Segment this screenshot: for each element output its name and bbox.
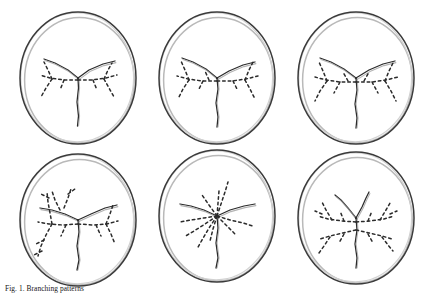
petri-dish-bottom-right bbox=[286, 148, 422, 290]
petri-dish-top-middle bbox=[147, 6, 287, 148]
branch-node bbox=[77, 77, 79, 79]
petri-dish-top-right bbox=[286, 6, 422, 148]
figure-caption: Fig. 1. Branching patterns bbox=[5, 284, 417, 293]
figure-root: Fig. 1. Branching patterns bbox=[0, 0, 422, 293]
branch-node bbox=[77, 219, 79, 221]
petri-dish-bottom-left bbox=[8, 148, 148, 290]
branch-node bbox=[355, 217, 357, 219]
petri-dish-bottom-middle bbox=[147, 148, 287, 290]
branch-node bbox=[216, 215, 218, 217]
branch-node bbox=[355, 77, 357, 79]
branch-node bbox=[216, 77, 218, 79]
petri-dish-panel-grid bbox=[0, 0, 422, 283]
petri-dish-top-left bbox=[8, 6, 148, 148]
